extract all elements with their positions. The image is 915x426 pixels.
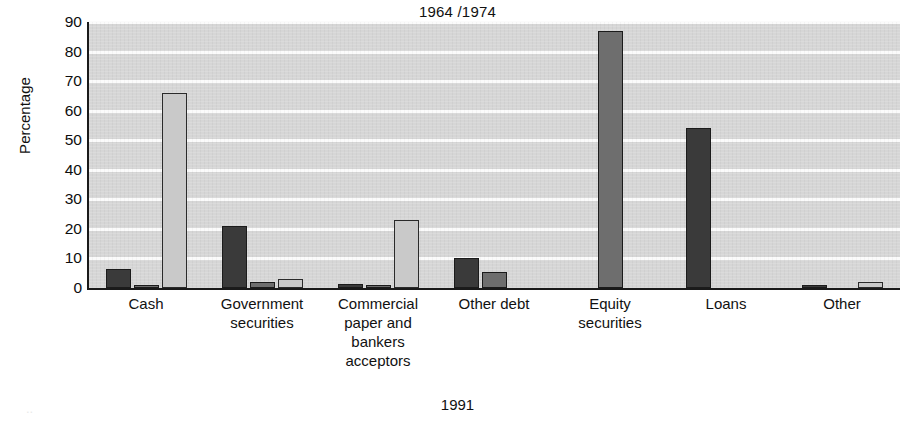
bar-1991-2 [394,220,419,288]
footer-label: 1991 [0,396,915,413]
bar-chart-figure: 1964 /1974 Percentage 908070605040302010… [0,0,915,426]
x-category-label-line: paper and [310,313,446,332]
chart-title: 1964 /1974 [0,3,915,20]
y-tick-label: 30 [18,190,82,208]
y-tick-label: 10 [18,249,82,267]
x-category-label-line: bankers [310,332,446,351]
bar-1974-3 [482,272,507,288]
bar-1964-5 [686,128,711,288]
bar-1991-1 [278,279,303,288]
x-axis-category-labels: CashGovernmentsecuritiesCommercialpaper … [88,294,900,394]
x-category-label: Other [774,294,910,313]
y-tick-label: 20 [18,220,82,238]
y-axis-tick-labels: 9080706050403020100 [12,0,82,426]
y-tick-label: 70 [18,72,82,90]
x-axis-line [88,288,900,290]
bar-1964-1 [222,226,247,288]
bar-1964-0 [106,269,131,288]
bar-1964-3 [454,258,479,288]
y-tick-label: 80 [18,43,82,61]
x-category-label-line: securities [542,313,678,332]
y-tick-label: 40 [18,161,82,179]
plot-area [88,22,900,288]
bars-layer [88,22,900,288]
scan-artifact: .. [26,404,40,414]
y-axis-line [87,22,89,290]
y-tick-label: 60 [18,102,82,120]
x-category-label-line: acceptors [310,351,446,370]
bar-1991-0 [162,93,187,288]
y-tick-label: 0 [18,279,82,297]
bar-1974-4 [598,31,623,288]
y-tick-label: 90 [18,13,82,31]
y-tick-label: 50 [18,131,82,149]
x-category-label-line: Other [774,294,910,313]
